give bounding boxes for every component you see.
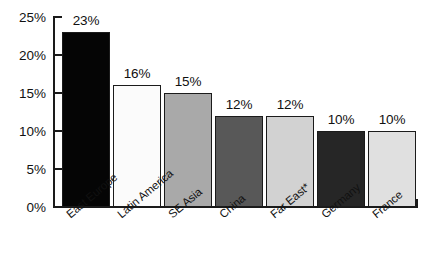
category-label: Germany <box>319 181 362 220</box>
category-label: Far East* <box>268 181 312 220</box>
category-label: East Europe <box>64 171 119 220</box>
category-label: China <box>217 192 247 220</box>
bar-chart: 0%5%10%15%20%25% 23%16%15%12%12%10%10% E… <box>0 0 440 275</box>
category-label: France <box>370 188 405 220</box>
category-label: SE Asia <box>166 186 204 221</box>
x-axis-category-labels: East EuropeLatin AmericaSE AsiaChinaFar … <box>0 0 440 275</box>
